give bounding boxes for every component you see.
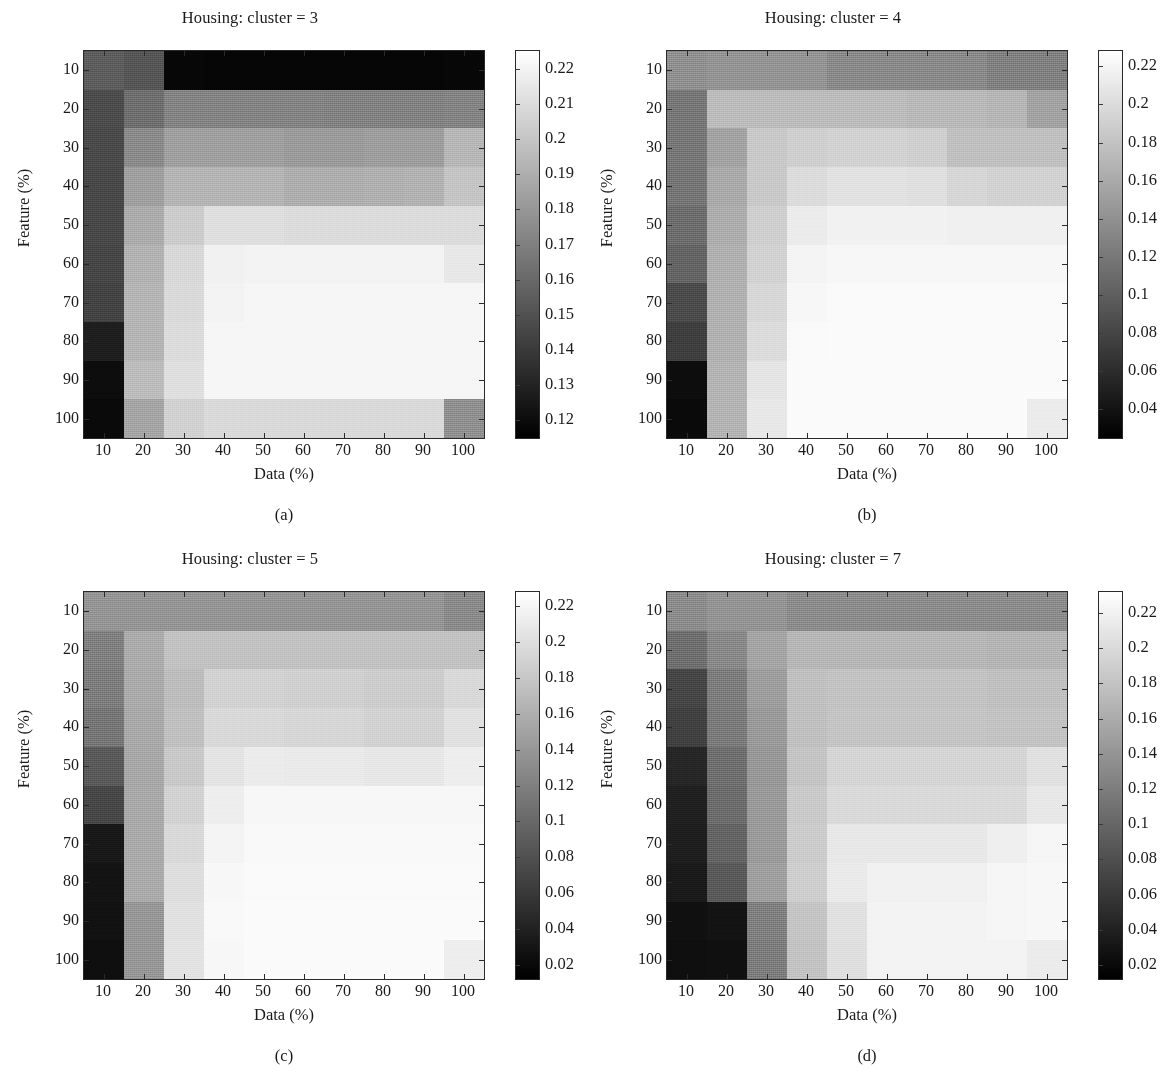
x-tick-label: 80 xyxy=(375,982,391,1000)
colorbar-tick-label: 0.14 xyxy=(1128,743,1157,763)
heatmap-cell xyxy=(444,631,484,670)
colorbar-tick-label: 0.14 xyxy=(1128,208,1157,228)
y-tick-label: 100 xyxy=(638,409,662,427)
heatmap-cell xyxy=(164,592,204,631)
x-tick-top xyxy=(687,592,688,597)
x-tick-label: 30 xyxy=(758,441,774,459)
heatmap-cell xyxy=(404,206,444,245)
y-tick-label: 80 xyxy=(63,331,79,349)
heatmap-cell xyxy=(787,902,827,941)
y-tick-label: 20 xyxy=(63,640,79,658)
heatmap-cell xyxy=(907,361,947,400)
x-tick-top xyxy=(144,51,145,56)
heatmap-cell xyxy=(324,863,364,902)
heatmap-cell xyxy=(787,786,827,825)
y-tick-label: 40 xyxy=(63,717,79,735)
colorbar-tick-label: 0.15 xyxy=(545,304,574,324)
heatmap-cell xyxy=(667,361,707,400)
y-tick-label: 30 xyxy=(63,138,79,156)
y-tick xyxy=(667,805,672,806)
heatmap-cell xyxy=(1027,90,1067,129)
y-tick-right xyxy=(1062,805,1067,806)
heatmap-cell xyxy=(827,747,867,786)
x-tick-top xyxy=(304,592,305,597)
heatmap-cell xyxy=(84,631,124,670)
colorbar-tick-label: 0.1 xyxy=(1128,813,1149,833)
colorbar-tick-label: 0.16 xyxy=(1128,170,1157,190)
heatmap-cell xyxy=(124,824,164,863)
colorbar-tick-label: 0.16 xyxy=(1128,708,1157,728)
heatmap-cell xyxy=(404,747,444,786)
x-tick xyxy=(184,433,185,438)
x-tick xyxy=(104,974,105,979)
heatmap-cell xyxy=(284,361,324,400)
heatmap-cell xyxy=(404,283,444,322)
x-tick-top xyxy=(847,51,848,56)
heatmap-cell xyxy=(1027,206,1067,245)
heatmap-cell xyxy=(987,51,1027,90)
heatmap-cell xyxy=(787,167,827,206)
x-tick-top xyxy=(767,592,768,597)
x-tick-label: 60 xyxy=(295,982,311,1000)
heatmap-cell xyxy=(707,361,747,400)
y-tick xyxy=(667,109,672,110)
heatmap-cell xyxy=(404,592,444,631)
x-tick-top xyxy=(424,592,425,597)
heatmap-cell xyxy=(707,631,747,670)
x-tick-top xyxy=(304,51,305,56)
heatmap-cell xyxy=(84,206,124,245)
y-axis-title: Feature (%) xyxy=(597,679,617,819)
heatmap-cell xyxy=(987,206,1027,245)
heatmap-cell xyxy=(324,245,364,284)
panel-d: Housing: cluster = 710203040506070809010… xyxy=(583,541,1166,1082)
heatmap-cell xyxy=(747,245,787,284)
heatmap-cell xyxy=(1027,592,1067,631)
y-tick-right xyxy=(479,148,484,149)
colorbar-tick-label: 0.18 xyxy=(1128,672,1157,692)
heatmap-cell xyxy=(987,90,1027,129)
heatmap-cell xyxy=(164,786,204,825)
heatmap-cell xyxy=(404,902,444,941)
heatmap-cell xyxy=(867,128,907,167)
y-tick-label: 50 xyxy=(646,756,662,774)
colorbar-tick-label: 0.12 xyxy=(545,409,574,429)
y-tick-right xyxy=(479,611,484,612)
y-tick xyxy=(84,70,89,71)
x-tick xyxy=(967,433,968,438)
heatmap-cell xyxy=(164,824,204,863)
heatmap-cell xyxy=(444,206,484,245)
y-tick-right xyxy=(1062,225,1067,226)
heatmap-cell xyxy=(164,631,204,670)
heatmap-cell xyxy=(787,128,827,167)
heatmap-cell xyxy=(164,863,204,902)
x-tick-top xyxy=(384,592,385,597)
heatmap-cell xyxy=(947,283,987,322)
heatmap-cell xyxy=(124,128,164,167)
heatmap-cell xyxy=(667,90,707,129)
heatmap-cell xyxy=(124,90,164,129)
heatmap-cell xyxy=(164,206,204,245)
heatmap-cell xyxy=(827,283,867,322)
heatmap-cell xyxy=(164,245,204,284)
heatmap-cell xyxy=(84,863,124,902)
colorbar-labels: 0.220.20.180.160.140.120.10.080.060.04 xyxy=(1128,50,1166,439)
heatmap-cell xyxy=(324,824,364,863)
heatmap-cell xyxy=(827,708,867,747)
heatmap-cell xyxy=(747,322,787,361)
y-tick-right xyxy=(1062,921,1067,922)
heatmap-cell xyxy=(747,361,787,400)
heatmap-cell xyxy=(827,592,867,631)
y-tick xyxy=(667,766,672,767)
heatmap-cell xyxy=(124,863,164,902)
x-tick xyxy=(887,433,888,438)
heatmap-cell xyxy=(364,128,404,167)
y-tick xyxy=(84,303,89,304)
heatmap-cell xyxy=(827,128,867,167)
x-tick-top xyxy=(384,51,385,56)
heatmap-cell xyxy=(444,283,484,322)
heatmap-cell xyxy=(667,51,707,90)
x-tick-top xyxy=(104,592,105,597)
heatmap-cell xyxy=(164,747,204,786)
heatmap-cell xyxy=(284,786,324,825)
y-tick-right xyxy=(1062,148,1067,149)
